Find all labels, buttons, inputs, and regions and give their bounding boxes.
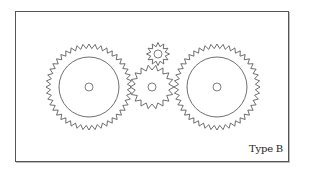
right-large-gear <box>174 44 260 130</box>
gear-teeth <box>130 65 174 108</box>
left-large-gear <box>46 44 132 130</box>
gear-layer <box>46 43 260 131</box>
type-caption: Type B <box>249 143 283 154</box>
gear-teeth <box>147 43 170 66</box>
small-top-gear <box>147 43 170 66</box>
center-gear <box>130 65 174 108</box>
